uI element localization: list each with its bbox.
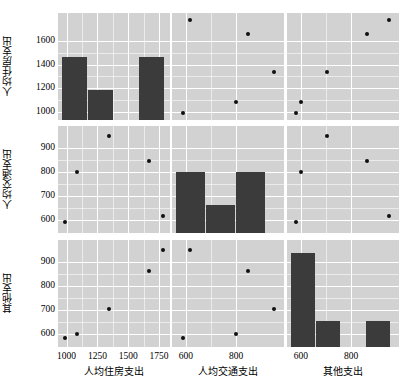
- histogram-bar: [236, 172, 265, 233]
- gridline-horizontal: [172, 112, 284, 113]
- gridline-horizontal: [172, 148, 284, 149]
- gridline-horizontal: [287, 220, 399, 221]
- panel-r2c2: [172, 126, 284, 233]
- gridline-horizontal-minor: [58, 298, 170, 299]
- gridline-horizontal: [287, 41, 399, 42]
- gridline-horizontal: [172, 334, 284, 335]
- gridline-horizontal: [287, 172, 399, 173]
- x-axis-tick-label: 600: [179, 352, 193, 362]
- y-axis-tick-label: 900: [41, 143, 55, 153]
- x-axis-tick-label: 1000: [57, 352, 76, 362]
- data-point: [188, 248, 192, 252]
- data-point: [147, 269, 151, 273]
- gridline-horizontal: [58, 220, 170, 221]
- gridline-horizontal: [287, 196, 399, 197]
- gridline-vertical-minor: [326, 126, 327, 233]
- histogram-bar: [176, 172, 205, 233]
- data-point: [272, 307, 276, 311]
- gridline-horizontal: [172, 286, 284, 287]
- histogram-bar: [62, 57, 87, 120]
- gridline-horizontal: [58, 41, 170, 42]
- gridline-horizontal-minor: [287, 53, 399, 54]
- gridline-vertical-minor: [326, 13, 327, 120]
- histogram-bar: [206, 205, 235, 233]
- data-point: [299, 170, 303, 174]
- gridline-horizontal: [172, 41, 284, 42]
- gridline-horizontal: [287, 88, 399, 89]
- gridline-horizontal-minor: [172, 322, 284, 323]
- gridline-vertical-minor: [211, 240, 212, 347]
- y-axis-title-row2: 人均交通支出: [3, 126, 13, 233]
- gridline-horizontal-minor: [172, 160, 284, 161]
- gridline-horizontal-minor: [58, 322, 170, 323]
- gridline-vertical: [128, 126, 129, 233]
- y-axis-title-row3: 其他支出: [3, 240, 13, 347]
- gridline-vertical-minor: [113, 240, 114, 347]
- data-point: [234, 100, 238, 104]
- data-point: [294, 111, 298, 115]
- data-point: [188, 18, 192, 22]
- histogram-bar: [88, 90, 113, 120]
- gridline-horizontal-minor: [58, 53, 170, 54]
- y-axis-tick-label: 800: [41, 281, 55, 291]
- gridline-horizontal: [58, 286, 170, 287]
- y-axis-tick-label: 1600: [36, 36, 55, 46]
- panel-r3c2: [172, 240, 284, 347]
- gridline-vertical: [159, 126, 160, 233]
- gridline-vertical: [236, 240, 237, 347]
- x-axis-tick-label: 1500: [119, 352, 138, 362]
- gridline-horizontal: [287, 148, 399, 149]
- gridline-vertical: [159, 240, 160, 347]
- gridline-horizontal: [172, 88, 284, 89]
- gridline-horizontal: [287, 112, 399, 113]
- gridline-vertical: [186, 13, 187, 120]
- gridline-horizontal-minor: [58, 160, 170, 161]
- data-point: [181, 111, 185, 115]
- gridline-vertical: [67, 126, 68, 233]
- gridline-vertical-minor: [113, 13, 114, 120]
- data-point: [325, 70, 329, 74]
- histogram-bar: [316, 321, 340, 347]
- y-axis-title-row1: 人均住房支出: [3, 13, 13, 120]
- x-axis-title-col1: 人均住房支出: [84, 367, 144, 377]
- gridline-horizontal-minor: [287, 100, 399, 101]
- data-point: [299, 100, 303, 104]
- gridline-vertical: [128, 13, 129, 120]
- y-axis-tick-label: 800: [41, 167, 55, 177]
- data-point: [325, 134, 329, 138]
- gridline-horizontal-minor: [58, 184, 170, 185]
- data-point: [246, 269, 250, 273]
- gridline-horizontal-minor: [58, 208, 170, 209]
- x-axis-title-col2: 人均交通支出: [198, 367, 258, 377]
- data-point: [107, 307, 111, 311]
- gridline-vertical-minor: [82, 126, 83, 233]
- gridline-horizontal: [58, 262, 170, 263]
- gridline-horizontal-minor: [287, 208, 399, 209]
- histogram-bar: [139, 57, 164, 120]
- gridline-vertical: [186, 240, 187, 347]
- x-axis-title-col3: 其他支出: [323, 367, 363, 377]
- gridline-horizontal-minor: [287, 160, 399, 161]
- histogram-bar: [366, 321, 390, 347]
- gridline-horizontal-minor: [172, 274, 284, 275]
- gridline-horizontal-minor: [58, 274, 170, 275]
- gridline-vertical: [351, 126, 352, 233]
- data-point: [75, 332, 79, 336]
- x-axis-tick-label: 800: [344, 352, 358, 362]
- gridline-horizontal: [172, 65, 284, 66]
- gridline-horizontal: [58, 148, 170, 149]
- y-axis-tick-label: 600: [41, 215, 55, 225]
- gridline-horizontal: [287, 65, 399, 66]
- data-point: [161, 214, 165, 218]
- panel-r1c2: [172, 13, 284, 120]
- data-point: [365, 159, 369, 163]
- gridline-vertical-minor: [82, 240, 83, 347]
- gridline-horizontal: [172, 310, 284, 311]
- x-axis-tick-label: 800: [229, 352, 243, 362]
- y-axis-tick-label: 1200: [36, 84, 55, 94]
- gridline-horizontal: [58, 196, 170, 197]
- histogram-bar: [291, 253, 315, 347]
- gridline-vertical: [351, 240, 352, 347]
- data-point: [387, 214, 391, 218]
- gridline-vertical: [97, 240, 98, 347]
